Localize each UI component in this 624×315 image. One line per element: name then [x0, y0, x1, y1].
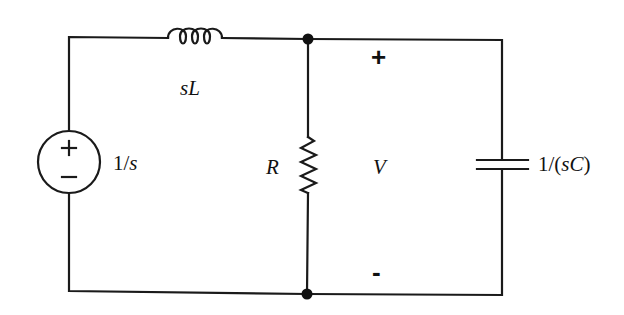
voltage-minus-sign: - — [372, 259, 381, 285]
resistor-symbol — [301, 137, 316, 193]
top-node-dot — [303, 34, 314, 45]
bottom-node-dot — [302, 289, 313, 300]
inductor-symbol — [168, 29, 222, 44]
capacitor-value-label: 1/(sC) — [538, 154, 591, 175]
source-value-text: 1/s — [113, 151, 138, 175]
voltage-name-label: V — [373, 157, 386, 178]
wire-left-bottom — [69, 170, 502, 295]
inductor-value-label: sL — [180, 78, 200, 99]
wire-top-right — [222, 38, 502, 160]
circuit-diagram — [0, 0, 624, 315]
resistor-value-label: R — [266, 157, 279, 178]
source-value-label: 1/s — [113, 153, 138, 174]
voltage-plus-sign: + — [371, 44, 386, 70]
wire-resistor-bottom — [307, 193, 308, 294]
wire-left-top — [69, 37, 168, 130]
